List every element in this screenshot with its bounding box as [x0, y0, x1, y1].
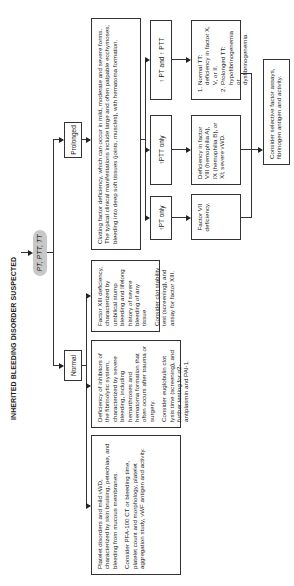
pt-ptt-result-box: Normal TT: deficiency in factor X, V, or… [191, 20, 241, 100]
connector [145, 60, 146, 218]
factor-vii-result-box: Factor VII deficiency. [191, 194, 241, 240]
box-action: Consider clot stability test (screening)… [153, 266, 175, 326]
result-item: Normal TT: deficiency in factor X, V, or… [196, 26, 218, 85]
ptt-only-box: ↑PTT only [150, 115, 172, 185]
factor-xiii-box: Factor XIII deficiency, characterized by… [91, 260, 160, 332]
box-action: Consider euglobulin clot lysis time (scr… [160, 346, 190, 422]
pt-only-box: ↑PT only [150, 196, 172, 240]
box-description: Deficiency of inhibitors of the fibrinol… [96, 346, 155, 422]
connector [241, 73, 251, 74]
normal-branch-box: Normal [64, 350, 82, 381]
start-test-pill: PT, PTT, TT [33, 230, 47, 276]
fibrinolytic-deficiency-box: Deficiency of inhibitors of the fibrinol… [91, 340, 181, 428]
connector [86, 296, 87, 506]
result-item: Prolonged TT: hypofibrinogenemia or dysf… [219, 26, 249, 85]
final-recommendation-box: Consider selective factor assays, fibrin… [263, 59, 290, 165]
box-action: Consider PFA-100 CT or bleeding time, pl… [123, 441, 145, 569]
platelet-disorder-box: Platelet disorders and mild vWD, charact… [91, 435, 181, 575]
pt-and-ptt-box: ↑ PT and ↑ PTT [150, 20, 172, 100]
connector [53, 140, 54, 366]
diagram-title: INHERITED BLEEDING DISORDER SUSPECTED [10, 257, 17, 420]
connector [251, 73, 252, 218]
clotting-factor-deficiency-box: Clotting factor deficiency, which can oc… [91, 18, 141, 250]
connector [241, 217, 251, 218]
box-description: Platelet disorders and mild vWD, charact… [96, 441, 118, 569]
box-description: Factor XIII deficiency, characterized by… [96, 266, 148, 326]
factor-viii-ix-xi-result-box: Deficiency in factor VIII (hemophilia A)… [191, 115, 241, 185]
prolonged-branch-box: Prolonged [64, 122, 82, 158]
flowchart: INHERITED BLEEDING DISORDER SUSPECTED PT… [0, 0, 294, 586]
